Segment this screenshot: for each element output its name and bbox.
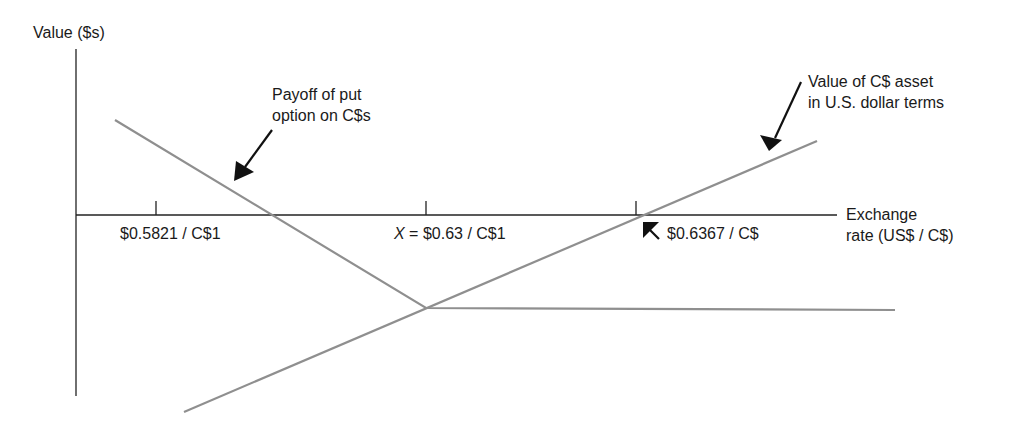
asset-label-arrow-icon bbox=[760, 82, 801, 151]
x-axis-label-line1: Exchange bbox=[846, 205, 917, 224]
x-axis-label-line2: rate (US$ / C$) bbox=[846, 226, 954, 245]
put-label-arrow-icon bbox=[234, 130, 272, 181]
strike-value: = $0.63 / C$1 bbox=[405, 225, 506, 242]
x-tick-label-0.5821: $0.5821 / C$1 bbox=[120, 224, 221, 243]
asset-annotation-line2: in U.S. dollar terms bbox=[808, 93, 944, 112]
breakeven-arrow-icon bbox=[643, 222, 659, 239]
x-tick-label-strike: X = $0.63 / C$1 bbox=[394, 224, 506, 243]
y-axis-label: Value ($s) bbox=[33, 23, 105, 42]
put-annotation-line2: option on C$s bbox=[272, 106, 371, 125]
x-tick-label-0.6367: $0.6367 / C$ bbox=[667, 224, 759, 243]
put-annotation-line1: Payoff of put bbox=[272, 85, 362, 104]
asset-annotation-line1: Value of C$ asset bbox=[808, 72, 933, 91]
asset-value-line bbox=[184, 141, 817, 412]
strike-variable: X bbox=[394, 225, 405, 242]
